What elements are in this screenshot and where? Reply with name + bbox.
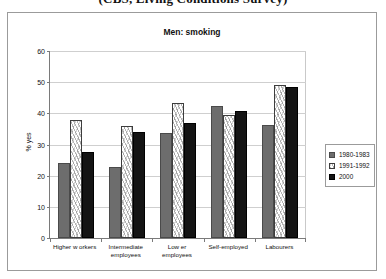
bar[interactable]	[58, 163, 70, 238]
bar-group	[152, 51, 203, 238]
bar-group	[204, 51, 255, 238]
x-tick-mark	[101, 238, 102, 242]
legend-label: 1991-1992	[339, 162, 370, 169]
bar[interactable]	[109, 167, 121, 238]
y-tick-label: 0	[41, 235, 45, 242]
bar[interactable]	[223, 115, 235, 238]
chart-title: Men: smoking	[8, 27, 376, 37]
bar[interactable]	[121, 126, 133, 238]
bar[interactable]	[286, 87, 298, 238]
bar-groups	[50, 51, 306, 238]
y-tick-label: 60	[37, 48, 45, 55]
x-axis-label: Higher w orkers	[49, 243, 100, 259]
x-tick-mark	[255, 238, 256, 242]
bar[interactable]	[184, 123, 196, 238]
legend-item[interactable]: 1991-1992	[329, 160, 370, 171]
bar[interactable]	[262, 125, 274, 238]
x-tick-mark	[50, 238, 51, 242]
y-tick-label: 20	[37, 172, 45, 179]
x-tick-mark	[204, 238, 205, 242]
bar-group	[101, 51, 152, 238]
x-axis-labels: Higher w orkersIntermediateemployeesLow …	[49, 243, 305, 259]
bar[interactable]	[133, 132, 145, 238]
legend-item[interactable]: 1980-1983	[329, 149, 370, 160]
bar[interactable]	[235, 111, 247, 238]
bar[interactable]	[274, 85, 286, 238]
x-tick-mark	[152, 238, 153, 242]
legend-swatch	[329, 152, 335, 158]
bar-group	[255, 51, 306, 238]
bar[interactable]	[172, 103, 184, 238]
legend-label: 2000	[339, 173, 353, 180]
legend-swatch	[329, 174, 335, 180]
x-axis-label: Intermediateemployees	[100, 243, 151, 259]
x-tick-mark	[305, 238, 306, 242]
y-tick-label: 30	[37, 141, 45, 148]
x-axis-label: Self-employed	[203, 243, 254, 259]
figure-caption: (CBS, Living Conditions Survey)	[0, 0, 386, 9]
y-tick-label: 40	[37, 110, 45, 117]
bar[interactable]	[160, 133, 172, 238]
legend-swatch	[329, 163, 335, 169]
y-axis-title: % yes	[25, 132, 32, 151]
legend-item[interactable]: 2000	[329, 171, 370, 182]
legend-label: 1980-1983	[339, 151, 370, 158]
y-tick-label: 50	[37, 79, 45, 86]
bar[interactable]	[211, 106, 223, 238]
bar[interactable]	[70, 120, 82, 238]
bar-group	[50, 51, 101, 238]
bar[interactable]	[82, 152, 94, 238]
plot-area: 0102030405060	[49, 51, 306, 239]
chart-frame: Men: smoking % yes 0102030405060 Higher …	[7, 12, 377, 271]
chart-legend: 1980-19831991-19922000	[325, 144, 375, 187]
x-axis-label: Low er employees	[151, 243, 202, 259]
x-axis-label: Labourers	[254, 243, 305, 259]
y-tick-label: 10	[37, 203, 45, 210]
